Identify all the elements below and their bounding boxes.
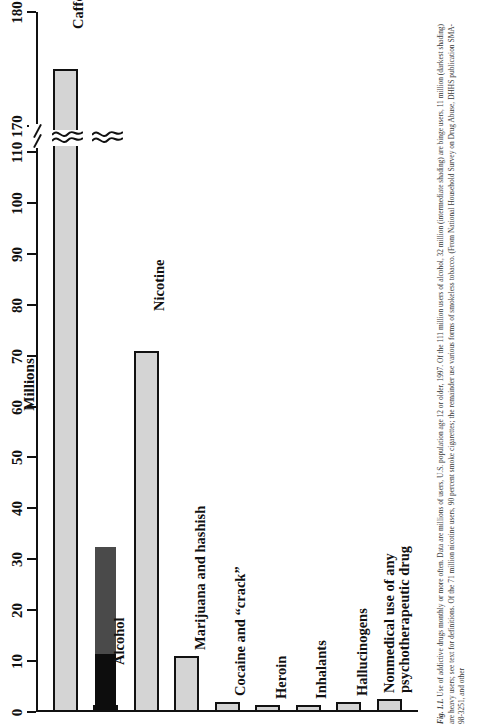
axis-tick — [27, 609, 36, 611]
bar-label: Marijuana and hashish — [192, 506, 209, 650]
axis-tick — [27, 660, 36, 662]
axis-tick-label: 100 — [10, 188, 25, 218]
bar-label: Cocaine and “crack” — [232, 566, 249, 696]
bar-break-marker — [92, 130, 119, 146]
bar — [377, 699, 402, 712]
axis-tick-label: 30 — [10, 545, 25, 575]
axis-break-marker — [30, 124, 46, 150]
axis-tick — [27, 202, 36, 204]
axis-tick-label: 90 — [10, 239, 25, 269]
bar-label-line: psychotherapeutic drug — [397, 546, 412, 693]
bar-label: Nicotine — [151, 259, 168, 311]
axis-tick-label: 170 — [10, 112, 25, 142]
axis-tick — [27, 304, 36, 306]
axis-title: Millions — [21, 350, 38, 420]
axis-tick-label: 80 — [10, 290, 25, 320]
axis-tick — [27, 11, 36, 13]
bar — [255, 705, 280, 712]
axis-tick — [27, 558, 36, 560]
axis-tick-label: 110 — [10, 138, 25, 168]
axis-tick — [27, 151, 36, 153]
bar — [336, 702, 361, 712]
figure-caption: Fig. 1.1. Use of addictive drugs monthly… — [436, 0, 482, 724]
bar-label: Heroin — [273, 656, 290, 699]
axis-tick-label: 20 — [10, 596, 25, 626]
axis-tick — [27, 507, 36, 509]
bar-label: Nonmedical use of anypsychotherapeutic d… — [382, 546, 412, 693]
bar — [296, 705, 321, 712]
axis-tick-label: 10 — [10, 647, 25, 677]
figure-caption-text: Use of addictive drugs monthly or more o… — [436, 24, 466, 724]
bar — [53, 69, 78, 712]
bar — [215, 702, 240, 712]
bar — [93, 705, 118, 712]
bar-label: Alcohol — [111, 617, 128, 665]
axis-tick — [27, 253, 36, 255]
axis-tick — [27, 456, 36, 458]
bar-label: Hallucinogens — [354, 608, 371, 696]
bar-chart-plot: 0102030405060708090100110170180 Caffeine… — [36, 12, 418, 712]
figure-panel: 0102030405060708090100110170180 Caffeine… — [0, 0, 484, 724]
axis-tick-label: 180 — [10, 0, 25, 28]
axis-tick-label: 0 — [10, 698, 25, 724]
bar-label: Inhalants — [313, 640, 330, 699]
figure-number: Fig. 1.1. — [436, 699, 445, 724]
bar — [174, 656, 199, 712]
bar — [134, 351, 159, 712]
bar-break-marker — [52, 130, 79, 146]
bar-label-line: Nonmedical use of any — [382, 546, 397, 693]
axis-tick-label: 40 — [10, 494, 25, 524]
bar-label: Caffeine — [70, 0, 87, 29]
axis-tick — [27, 711, 36, 713]
axis-tick-label: 50 — [10, 443, 25, 473]
